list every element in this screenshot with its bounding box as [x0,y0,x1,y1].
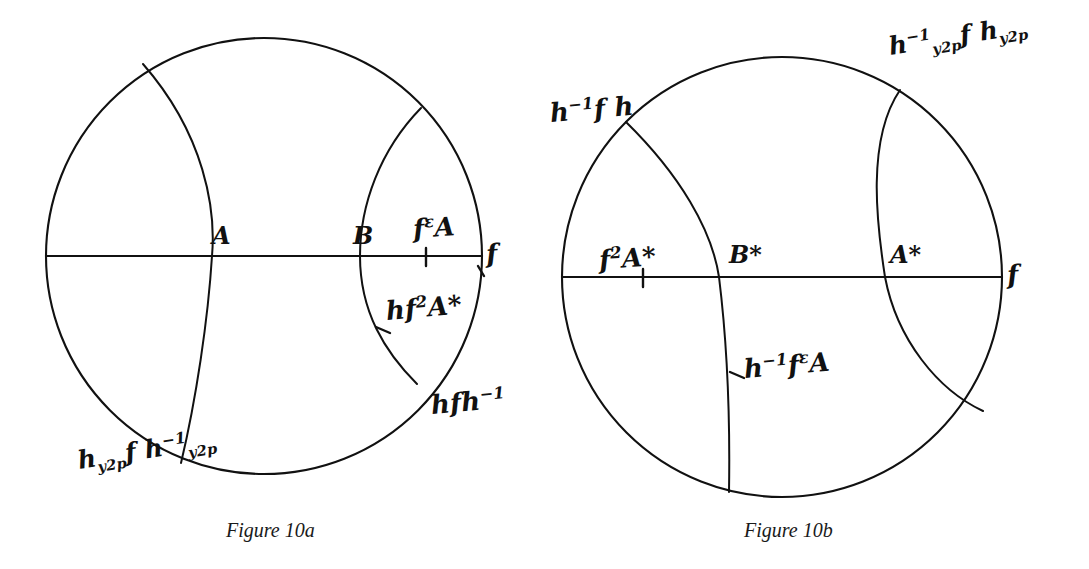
label-f-epsilon-A: fεA [412,213,455,242]
label-f2-A-star: f2A* [598,243,657,273]
point-B-star: B* [729,243,762,267]
point-B: B [353,224,373,248]
geodesic-left-10a [143,64,213,463]
label-axis-f-right-10a: f [485,240,498,267]
caption-figure-10b: Figure 10b [744,519,833,542]
label-h-f2-A-star: hf2A* [385,291,463,324]
point-A-star: A* [890,243,921,267]
label-axis-f-right-10b: f [1006,261,1019,288]
label-h-inverse-f-epsilon-A: h−1fεA [743,349,831,382]
point-A: A [212,224,231,248]
tick-h-inverse-f-eps-A-10b [730,372,744,378]
figure-10a-drawing [0,0,1089,569]
label-h-inverse-f-h: h−1f h [549,93,635,126]
geodesic-left-10b [626,122,729,492]
caption-figure-10a: Figure 10a [226,519,315,542]
figure-board: A B fεA f hf2A* hfh−1 hy2pf h−1y2p B* A*… [0,0,1089,569]
